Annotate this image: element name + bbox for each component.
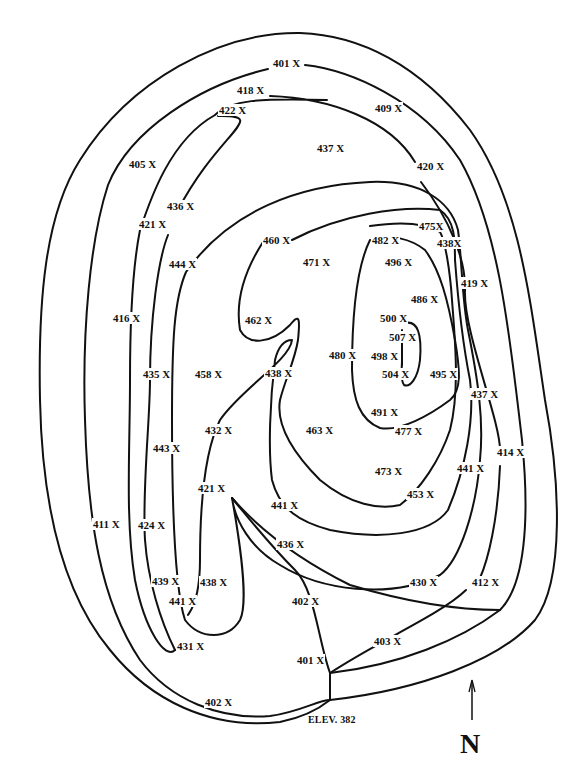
spot-elevation-label: 435 X bbox=[142, 368, 171, 380]
outlet-elevation-label: ELEV. 382 bbox=[308, 714, 356, 725]
spot-elevation-label: 403 X bbox=[373, 635, 402, 647]
spot-elevation-label: 504 X bbox=[381, 368, 410, 380]
spot-elevation-label: 414 X bbox=[496, 446, 525, 458]
spot-elevation-label: 421 X bbox=[197, 482, 226, 494]
spot-elevation-label: 438 X bbox=[199, 576, 228, 588]
spot-elevation-label: 421 X bbox=[138, 218, 167, 230]
spot-elevation-label: 441 X bbox=[456, 462, 485, 474]
spot-elevation-label: 416 X bbox=[112, 312, 141, 324]
spot-elevation-label: 432 X bbox=[204, 424, 233, 436]
spot-elevation-label: 402 X bbox=[291, 595, 320, 607]
spot-elevation-label: 491 X bbox=[370, 406, 399, 418]
spot-elevation-label: 438 X bbox=[264, 367, 293, 379]
spot-elevation-label: 444 X bbox=[168, 258, 197, 270]
spot-elevation-label: 424 X bbox=[137, 519, 166, 531]
spot-elevation-label: 463 X bbox=[305, 424, 334, 436]
spot-elevation-label: 420 X bbox=[416, 160, 445, 172]
stream-channel-bank bbox=[232, 498, 500, 610]
spot-elevation-label: 482 X bbox=[371, 234, 400, 246]
contour-line-5 bbox=[172, 182, 481, 635]
contour-line-outer bbox=[40, 33, 557, 723]
spot-elevation-label: 462 X bbox=[244, 314, 273, 326]
spot-elevation-label: 436 X bbox=[166, 200, 195, 212]
contour-line-6 bbox=[188, 209, 471, 615]
spot-elevation-label: 419 X bbox=[460, 277, 489, 289]
spot-elevation-label: 438X bbox=[436, 237, 462, 249]
spot-elevation-label: 422 X bbox=[218, 104, 247, 116]
spot-elevation-label: 460 X bbox=[262, 234, 291, 246]
contour-line-4 bbox=[144, 116, 240, 650]
spot-elevation-label: 436 X bbox=[276, 538, 305, 550]
contour-line-3 bbox=[129, 96, 500, 673]
spot-elevation-label: 453 X bbox=[406, 488, 435, 500]
spot-elevation-label: 496 X bbox=[384, 256, 413, 268]
spot-elevation-label: 471 X bbox=[302, 256, 331, 268]
spot-elevation-label: 411 X bbox=[92, 518, 121, 530]
spot-elevation-label: 431 X bbox=[176, 640, 205, 652]
spot-elevation-label: 495 X bbox=[429, 368, 458, 380]
spot-elevation-label: 430 X bbox=[409, 576, 438, 588]
spot-elevation-label: 441 X bbox=[168, 595, 197, 607]
spot-elevation-label: 477 X bbox=[394, 425, 423, 437]
spot-elevation-label: 443 X bbox=[152, 442, 181, 454]
spot-elevation-label: 401 X bbox=[296, 654, 325, 666]
spot-elevation-label: 401 X bbox=[272, 57, 301, 69]
spot-elevation-label: 475X bbox=[418, 220, 444, 232]
north-label: N bbox=[460, 728, 480, 760]
contour-map bbox=[0, 0, 587, 772]
spot-elevation-label: 418 X bbox=[236, 84, 265, 96]
spot-elevation-label: 412 X bbox=[471, 576, 500, 588]
spot-elevation-label: 402 X bbox=[204, 696, 233, 708]
spot-elevation-label: 437 X bbox=[470, 388, 499, 400]
spot-elevation-label: 473 X bbox=[374, 465, 403, 477]
spot-elevation-label: 458 X bbox=[194, 368, 223, 380]
spot-elevation-label: 486 X bbox=[410, 293, 439, 305]
spot-elevation-label: 441 X bbox=[270, 499, 299, 511]
spot-elevation-label: 409 X bbox=[374, 102, 403, 114]
spot-elevation-label: 500 X bbox=[379, 312, 408, 324]
spot-elevation-label: 437 X bbox=[316, 142, 345, 154]
spot-elevation-label: 439 X bbox=[151, 575, 180, 587]
spot-elevation-label: 507 X bbox=[388, 331, 417, 343]
spot-elevation-label: 498 X bbox=[370, 350, 399, 362]
spot-elevation-label: 405 X bbox=[128, 158, 157, 170]
spot-elevation-label: 480 X bbox=[328, 349, 357, 361]
